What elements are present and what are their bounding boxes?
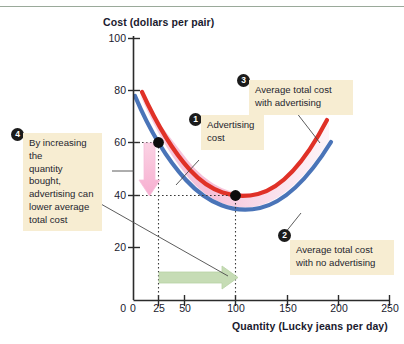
- quantity-increase-arrow: [159, 266, 238, 289]
- y-tick-label-100: 100: [100, 32, 126, 44]
- y-axis-title: Cost (dollars per pair): [103, 16, 214, 28]
- y-tick-label-80: 80: [100, 84, 126, 96]
- callout-1-advertising-cost: Advertising cost: [201, 115, 264, 150]
- economics-figure: Cost (dollars per pair) Quantity (Lucky …: [0, 0, 404, 344]
- callout-4-quantity-bought: By increasing the quantity bought, adver…: [23, 133, 102, 231]
- x-axis-title: Quantity (Lucky jeans per day): [232, 320, 388, 332]
- y-tick-label-40: 40: [100, 189, 126, 201]
- x-tick-label-100: 100: [223, 302, 249, 314]
- callout-3-atc-with-advertising: Average total cost with advertising: [249, 80, 353, 115]
- x-tick-label-25: 25: [146, 302, 172, 314]
- x-tick-label-50: 50: [172, 302, 198, 314]
- cost-decrease-arrow: [139, 143, 160, 196]
- point-no-advertising: [153, 137, 164, 148]
- x-tick-label-0: 0: [120, 302, 146, 314]
- x-tick-label-200: 200: [326, 302, 352, 314]
- point-with-advertising: [230, 190, 241, 201]
- callout-2-atc-no-advertising: Average total cost with no advertising: [290, 240, 394, 275]
- x-tick-label-250: 250: [377, 302, 403, 314]
- x-tick-label-150: 150: [275, 302, 301, 314]
- y-tick-label-60: 60: [100, 136, 126, 148]
- y-tick-label-20: 20: [100, 241, 126, 253]
